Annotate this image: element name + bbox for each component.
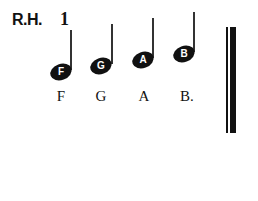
note-stem [193, 12, 195, 52]
note-label: F [57, 88, 65, 105]
note-letter: B [178, 48, 190, 60]
note-letter: G [95, 60, 107, 72]
note-label: A [139, 88, 150, 105]
barline-thin [226, 27, 228, 133]
note-stem [152, 18, 154, 58]
finger-number: 1 [60, 9, 69, 30]
note-stem [111, 24, 113, 64]
barline-thick [230, 27, 236, 133]
note-stem [70, 30, 72, 70]
note-letter: F [55, 66, 67, 78]
note-label: G [96, 88, 107, 105]
hand-indicator: R.H. [12, 11, 42, 29]
note-letter: A [137, 54, 149, 66]
note-label: B. [180, 88, 194, 105]
